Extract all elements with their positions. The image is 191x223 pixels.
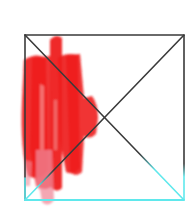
right-edge <box>183 35 185 200</box>
drawing-canvas <box>0 0 191 223</box>
red-scribble <box>22 36 98 205</box>
